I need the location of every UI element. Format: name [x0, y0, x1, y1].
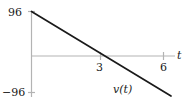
plot-area — [0, 0, 188, 106]
y-axis-tick-label-96: 96 — [8, 7, 22, 18]
x-axis-tick-label-3: 3 — [96, 62, 103, 73]
x-axis-tick-label-6: 6 — [160, 62, 167, 73]
curve-label-vt: v(t) — [113, 84, 132, 95]
velocity-time-graph: 96 −96 3 6 t v(t) — [0, 0, 188, 106]
y-axis-tick-label-neg96: −96 — [2, 87, 25, 98]
x-axis-title-t: t — [177, 50, 181, 61]
velocity-line — [32, 12, 172, 97]
